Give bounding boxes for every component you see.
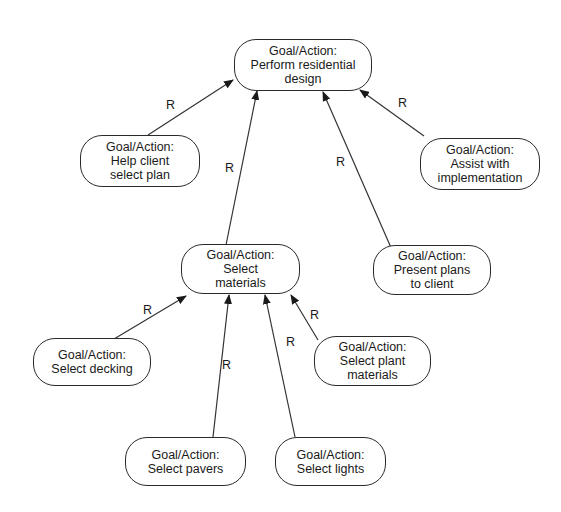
node-line: Select decking xyxy=(51,362,132,376)
node-title: Goal/Action: xyxy=(398,249,466,263)
edge-label-help: R xyxy=(166,98,175,112)
node-title: Goal/Action: xyxy=(269,44,337,58)
edge-label-pavers: R xyxy=(222,358,231,372)
node-line: Select plant xyxy=(340,354,405,368)
edge-label-plant: R xyxy=(310,308,319,322)
edge-label-decking: R xyxy=(143,303,152,317)
edge-present-to-perform xyxy=(323,92,392,250)
edge-lights-to-materials xyxy=(265,295,295,437)
edge-label-materials: R xyxy=(225,161,234,175)
node-line: Select lights xyxy=(297,462,364,476)
node-line: select plan xyxy=(110,168,170,182)
node-select-pavers: Goal/Action: Select pavers xyxy=(125,437,246,486)
node-assist-with-implementation: Goal/Action: Assist with implementation xyxy=(420,138,540,190)
node-line: materials xyxy=(347,368,398,382)
node-line: Assist with xyxy=(450,157,509,171)
node-present-plans-to-client: Goal/Action: Present plans to client xyxy=(373,245,491,295)
node-select-plant-materials: Goal/Action: Select plant materials xyxy=(314,336,431,386)
node-line: Select xyxy=(223,262,258,276)
node-title: Goal/Action: xyxy=(338,340,406,354)
node-title: Goal/Action: xyxy=(106,140,174,154)
node-title: Goal/Action: xyxy=(296,448,364,462)
node-line: Perform residential xyxy=(251,58,356,72)
node-line: Select pavers xyxy=(148,462,224,476)
node-line: Present plans xyxy=(394,263,470,277)
edge-label-present: R xyxy=(336,155,345,169)
node-perform-residential-design: Goal/Action: Perform residential design xyxy=(234,39,372,91)
node-help-client-select-plan: Goal/Action: Help client select plan xyxy=(80,135,200,187)
node-title: Goal/Action: xyxy=(206,248,274,262)
node-line: implementation xyxy=(438,171,523,185)
node-select-decking: Goal/Action: Select decking xyxy=(33,338,151,386)
node-select-lights: Goal/Action: Select lights xyxy=(275,437,386,486)
edge-label-lights: R xyxy=(286,335,295,349)
node-select-materials: Goal/Action: Select materials xyxy=(181,244,300,294)
node-line: to client xyxy=(410,277,453,291)
node-line: design xyxy=(285,72,322,86)
node-title: Goal/Action: xyxy=(446,143,514,157)
node-title: Goal/Action: xyxy=(58,348,126,362)
edge-label-assist: R xyxy=(398,96,407,110)
node-title: Goal/Action: xyxy=(151,448,219,462)
edge-help-to-perform xyxy=(148,80,233,135)
node-line: materials xyxy=(215,276,266,290)
edge-assist-to-perform xyxy=(360,90,424,136)
node-line: Help client xyxy=(111,154,169,168)
